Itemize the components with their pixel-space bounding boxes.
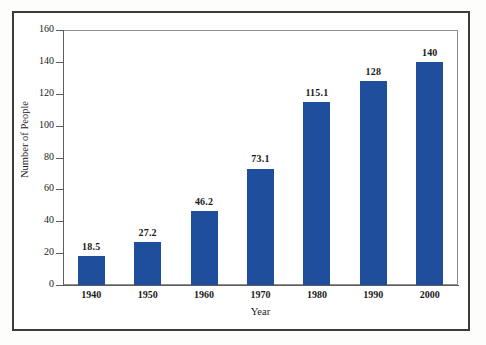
bar-value-label: 46.2 <box>174 196 234 207</box>
y-axis-tick-label: 120 <box>28 87 54 98</box>
bar-value-label: 18.5 <box>61 241 121 252</box>
y-axis-tick-label: 0 <box>28 278 54 289</box>
chart-screenshot: 020406080100120140160 Number of People 1… <box>0 0 486 345</box>
bar <box>360 81 387 285</box>
bar-value-label: 73.1 <box>231 153 291 164</box>
x-axis-tick-label: 1980 <box>287 289 347 300</box>
bar <box>78 256 105 285</box>
y-axis-tick <box>56 285 63 286</box>
x-axis-title: Year <box>63 306 458 317</box>
y-axis-tick <box>56 189 63 190</box>
x-axis-tick-label: 1960 <box>174 289 234 300</box>
bar <box>191 211 218 285</box>
bar <box>134 242 161 285</box>
y-axis-tick-label: 80 <box>28 151 54 162</box>
y-axis-tick <box>56 30 63 31</box>
bar-value-label: 140 <box>400 47 460 58</box>
bar <box>247 169 274 286</box>
y-axis-tick-label: 40 <box>28 214 54 225</box>
y-axis-tick <box>56 221 63 222</box>
x-axis-line <box>63 285 459 286</box>
x-axis-tick-label: 2000 <box>400 289 460 300</box>
y-axis-tick-label: 140 <box>28 55 54 66</box>
y-axis-title: Number of People <box>19 70 30 210</box>
x-axis-tick-label: 1940 <box>61 289 121 300</box>
y-axis-tick-label: 160 <box>28 23 54 34</box>
x-axis-tick-label: 1990 <box>343 289 403 300</box>
bar-value-label: 128 <box>343 66 403 77</box>
y-axis-tick-label: 100 <box>28 119 54 130</box>
y-axis-tick <box>56 62 63 63</box>
bar-value-label: 27.2 <box>118 227 178 238</box>
bar <box>303 102 330 285</box>
bar-value-label: 115.1 <box>287 87 347 98</box>
x-axis-tick-label: 1950 <box>118 289 178 300</box>
y-axis-tick <box>56 253 63 254</box>
y-axis-tick <box>56 94 63 95</box>
y-axis-tick-label: 60 <box>28 182 54 193</box>
y-axis-tick <box>56 158 63 159</box>
y-axis-tick <box>56 126 63 127</box>
y-axis-tick-label: 20 <box>28 246 54 257</box>
x-axis-tick-label: 1970 <box>231 289 291 300</box>
bar <box>416 62 443 285</box>
